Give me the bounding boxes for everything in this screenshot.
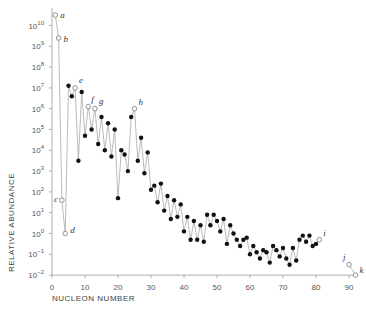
point-label-e: e — [79, 75, 83, 85]
data-point — [89, 127, 93, 131]
data-point — [188, 238, 192, 242]
y-tick-label: 107 — [32, 82, 45, 93]
data-point — [225, 242, 229, 246]
data-line — [55, 15, 319, 265]
point-label-a: a — [60, 10, 65, 20]
data-point — [109, 154, 113, 158]
data-point — [208, 223, 212, 227]
data-point — [96, 142, 100, 146]
open-data-point — [353, 273, 358, 278]
y-tick-label: 104 — [32, 144, 45, 155]
point-label-f: f — [91, 94, 95, 104]
data-point — [218, 229, 222, 233]
x-tick-label: 40 — [180, 283, 189, 292]
data-point — [149, 188, 153, 192]
data-point — [248, 252, 252, 256]
data-point — [198, 223, 202, 227]
data-point — [129, 115, 133, 119]
data-point — [70, 94, 74, 98]
data-point — [287, 263, 291, 267]
data-point — [83, 134, 87, 138]
data-point — [175, 215, 179, 219]
data-point — [80, 90, 84, 94]
data-point — [231, 231, 235, 235]
y-tick-label: 108 — [32, 61, 45, 72]
data-point — [142, 171, 146, 175]
data-point — [126, 169, 130, 173]
point-label-b: b — [64, 34, 69, 44]
data-point — [274, 248, 278, 252]
data-point — [212, 213, 216, 217]
data-point — [294, 258, 298, 262]
point-label-k: k — [360, 265, 365, 275]
data-point — [251, 244, 255, 248]
data-point — [192, 219, 196, 223]
data-point — [297, 238, 301, 242]
data-point — [159, 181, 163, 185]
open-data-point — [63, 231, 68, 236]
data-point — [205, 213, 209, 217]
y-tick-label: 10−1 — [28, 248, 44, 259]
open-data-point — [60, 198, 65, 203]
data-point — [221, 217, 225, 221]
data-point — [169, 217, 173, 221]
data-point — [291, 246, 295, 250]
data-point — [119, 148, 123, 152]
x-tick-label: 90 — [345, 283, 354, 292]
data-point — [301, 233, 305, 237]
open-data-point — [73, 86, 78, 91]
data-point — [116, 196, 120, 200]
data-point — [284, 256, 288, 260]
point-label-i: i — [323, 228, 326, 238]
open-data-point — [56, 36, 61, 41]
data-point — [155, 200, 159, 204]
data-point — [106, 121, 110, 125]
point-label-d: d — [70, 225, 75, 235]
data-point — [228, 223, 232, 227]
data-point — [264, 250, 268, 254]
plot-area: abcdefghijk — [53, 10, 365, 277]
data-point — [195, 238, 199, 242]
data-point — [113, 127, 117, 131]
x-tick-label: 70 — [279, 283, 288, 292]
data-point — [307, 233, 311, 237]
data-point — [235, 238, 239, 242]
point-label-g: g — [99, 96, 104, 106]
x-tick-label: 30 — [147, 283, 156, 292]
data-point — [202, 240, 206, 244]
data-point — [278, 254, 282, 258]
y-tick-label: 1010 — [28, 20, 44, 31]
y-tick-label: 101 — [32, 207, 45, 218]
y-tick-label: 103 — [32, 165, 45, 176]
open-data-point — [86, 104, 91, 109]
data-point — [281, 246, 285, 250]
x-tick-label: 50 — [213, 283, 222, 292]
data-point — [165, 194, 169, 198]
data-point — [146, 150, 150, 154]
data-point — [103, 148, 107, 152]
data-point — [271, 244, 275, 248]
data-point — [258, 256, 262, 260]
x-tick-label: 80 — [312, 283, 321, 292]
data-point — [139, 136, 143, 140]
x-tick-label: 60 — [246, 283, 255, 292]
x-axis-title: NUCLEON NUMBER — [52, 294, 135, 303]
abundance-chart: 101010910810710610510410310210110010−110… — [0, 0, 366, 324]
data-point — [182, 229, 186, 233]
data-point — [99, 115, 103, 119]
y-tick-label: 10−2 — [28, 269, 44, 280]
data-point — [304, 240, 308, 244]
data-point — [122, 152, 126, 156]
data-point — [162, 208, 166, 212]
data-point — [215, 219, 219, 223]
open-data-point — [347, 262, 352, 267]
point-label-c: c — [54, 194, 58, 204]
open-data-point — [93, 106, 98, 111]
data-point — [152, 183, 156, 187]
data-point — [314, 242, 318, 246]
y-axis-title: RELATIVE ABUNDANCE — [7, 173, 16, 272]
x-tick-label: 0 — [50, 283, 55, 292]
y-tick-label: 106 — [32, 103, 45, 114]
x-tick-label: 20 — [114, 283, 123, 292]
data-point — [66, 84, 70, 88]
